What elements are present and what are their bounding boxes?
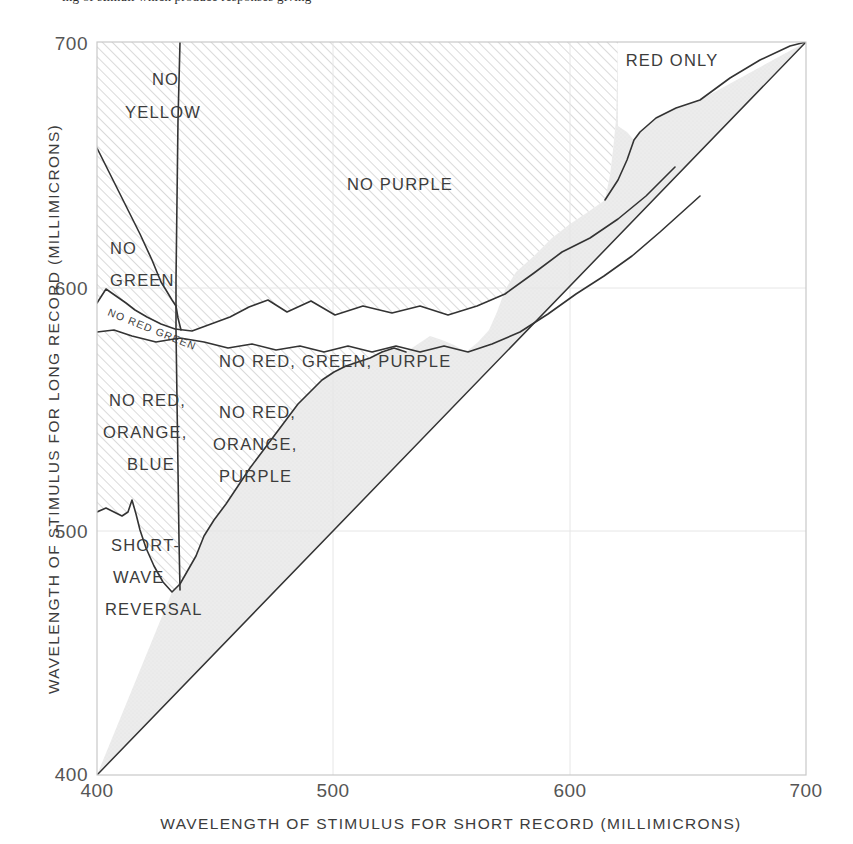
label-short-wave-reversal-line1: SHORT- [111,536,180,554]
x-tick-labels: 400 500 600 700 [80,780,822,801]
label-no-yellow-line1: NO [152,70,179,88]
x-axis-title: WAVELENGTH OF STIMULUS FOR SHORT RECORD … [160,815,741,832]
label-no-red-green-purple: NO RED, GREEN, PURPLE [219,352,451,370]
chart-svg: NO YELLOW NO PURPLE RED ONLY NO GREEN NO… [0,0,853,844]
label-no-red-orange-blue-line3: BLUE [127,455,175,473]
x-tick-400: 400 [80,780,113,801]
label-no-yellow-line2: YELLOW [125,103,201,121]
x-tick-500: 500 [316,780,349,801]
label-no-green-line1: NO [110,239,137,257]
label-no-red-orange-purple-line3: PURPLE [219,467,292,485]
partial-caption-top: ing of stimuli which produce responses g… [62,0,311,5]
label-no-red-orange-blue-line1: NO RED, [109,391,186,409]
x-tick-600: 600 [553,780,586,801]
label-short-wave-reversal-line2: WAVE [113,568,165,586]
label-red-only: RED ONLY [626,51,719,69]
label-no-red-orange-blue-line2: ORANGE, [103,423,188,441]
x-tick-700: 700 [789,780,822,801]
figure-root: ing of stimuli which produce responses g… [0,0,853,844]
y-axis-title: WAVELENGTH OF STIMULUS FOR LONG RECORD (… [45,124,62,694]
label-no-red-orange-purple-line2: ORANGE, [213,435,298,453]
label-no-red-orange-purple-line1: NO RED, [219,403,296,421]
label-no-green-line2: GREEN [110,271,175,289]
y-tick-700: 700 [55,33,88,54]
label-short-wave-reversal-line3: REVERSAL [105,600,203,618]
label-no-purple: NO PURPLE [347,175,453,193]
